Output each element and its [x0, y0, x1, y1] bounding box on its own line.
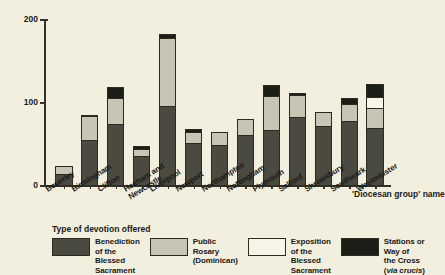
bar-segment-rosary[interactable] — [237, 119, 254, 136]
legend-title: Type of devotion offered — [52, 224, 437, 234]
legend-swatch-benediction — [52, 238, 90, 256]
bar-segment-rosary[interactable] — [211, 132, 228, 145]
bar-series-container — [44, 14, 391, 186]
bar-segment-rosary[interactable] — [341, 104, 358, 122]
legend-swatch-exposition — [248, 238, 286, 256]
bar-salford[interactable] — [289, 93, 306, 185]
legend-item-stations[interactable]: Stations or Way ofthe Cross (via crucis) — [341, 237, 427, 275]
legend-label: Stations or Way ofthe Cross (via crucis) — [384, 237, 427, 275]
bar-segment-stations[interactable] — [366, 84, 383, 98]
bar-segment-rosary[interactable] — [159, 38, 176, 106]
legend-swatch-rosary — [150, 238, 188, 256]
bar-segment-rosary[interactable] — [81, 116, 98, 141]
legend-swatch-stations — [341, 238, 379, 256]
legend-item-exposition[interactable]: Exposition of the Blessed Sacrament — [248, 237, 331, 275]
y-tick-label: 0 — [33, 180, 38, 190]
x-axis-tick-labels: BeverleyBirminghamCliftonHexham and Newc… — [44, 186, 391, 226]
plot-area: 0100200 — [44, 14, 391, 186]
bar-segment-rosary[interactable] — [315, 112, 332, 127]
legend-label: Exposition of the Blessed Sacrament — [291, 237, 331, 275]
legend-items: Benediction of the Blessed SacramentPubl… — [52, 237, 437, 275]
bar-segment-rosary[interactable] — [263, 96, 280, 131]
y-tick-label: 100 — [24, 97, 38, 107]
y-tick-label: 200 — [24, 14, 38, 24]
y-axis-title-clip: Proportion of churches, expressed as a p… — [0, 0, 20, 190]
legend: Type of devotion offered Benediction of … — [52, 224, 437, 275]
x-axis-title: 'Diocesan group' name — [352, 189, 445, 199]
legend-item-benediction[interactable]: Benediction of the Blessed Sacrament — [52, 237, 140, 275]
legend-label: Benediction of the Blessed Sacrament — [95, 237, 140, 275]
bar-segment-rosary[interactable] — [289, 95, 306, 118]
legend-label: Public Rosary (Dominican) — [193, 237, 238, 266]
bar-segment-rosary[interactable] — [107, 98, 124, 125]
bar-segment-rosary[interactable] — [366, 108, 383, 129]
legend-item-rosary[interactable]: Public Rosary (Dominican) — [150, 237, 238, 266]
